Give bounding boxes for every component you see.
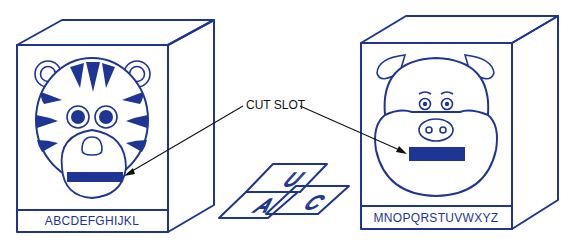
right-box-cut-slot xyxy=(409,147,465,161)
pig-face-icon xyxy=(375,55,497,196)
right-box-top-face xyxy=(361,16,558,43)
left-box-top-face xyxy=(17,20,214,45)
cut-slot-callout: CUT SLOT xyxy=(124,98,407,176)
right-box-side-face xyxy=(512,16,558,229)
right-box: MNOPQRSTUVWXYZ xyxy=(361,16,558,229)
letter-cards: U A C xyxy=(219,164,349,218)
left-box-label: ABCDEFGHIJKL xyxy=(45,214,139,228)
diagram-canvas: ABCDEFGHIJKL xyxy=(0,0,575,245)
right-box-label: MNOPQRSTUVWXYZ xyxy=(374,211,499,225)
left-box-cut-slot xyxy=(67,172,123,182)
left-box-side-face xyxy=(168,20,214,232)
card-letter-c: C xyxy=(300,192,329,213)
left-box: ABCDEFGHIJKL xyxy=(17,20,214,232)
cut-slot-label: CUT SLOT xyxy=(246,98,306,112)
